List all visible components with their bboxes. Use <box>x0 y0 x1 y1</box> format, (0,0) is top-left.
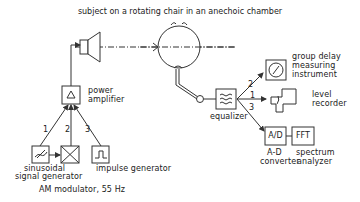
am-modulator-label: AM modulator, 55 Hz <box>39 185 125 194</box>
level-recorder-icon <box>271 89 296 112</box>
power-amplifier-box <box>62 86 80 104</box>
input-path-1-label: 1 <box>43 125 48 134</box>
equalizer-box <box>216 89 236 109</box>
amp-to-speaker-wire <box>71 45 80 86</box>
subject-head-icon <box>140 23 236 68</box>
microphone-probe-icon <box>174 66 204 103</box>
power-amplifier-label-2: amplifier <box>88 95 124 104</box>
fft-analyzer-label-1: spectrum <box>296 148 335 157</box>
group-delay-label-2: measuring <box>292 61 335 70</box>
group-delay-label-1: group delay <box>292 52 341 61</box>
ad-converter-label-1: A-D <box>267 148 282 157</box>
fft-box-text: FFT <box>292 131 314 140</box>
equalizer-label: equalizer <box>210 112 248 121</box>
loudspeaker-icon <box>80 32 100 62</box>
impulse-generator-box <box>92 146 109 163</box>
output-path-1-label: 1 <box>250 91 255 100</box>
level-recorder-label-2: recorder <box>312 99 347 108</box>
fft-analyzer-label-2: analyzer <box>297 157 332 166</box>
impulse-generator-label: impulse generator <box>96 164 171 173</box>
ad-box-text: A/D <box>265 131 286 140</box>
power-amplifier-label-1: power <box>88 86 113 95</box>
group-delay-label-3: instrument <box>292 70 337 79</box>
input-path-3-label: 3 <box>85 125 90 134</box>
output-path-3-label: 3 <box>249 103 254 112</box>
ad-converter-label-2: converter <box>260 157 300 166</box>
level-recorder-label-1: level <box>312 90 332 99</box>
input-path-2-label: 2 <box>65 125 70 134</box>
output-path-2-label: 2 <box>248 80 253 89</box>
sinusoidal-label-2: signal generator <box>15 172 82 181</box>
